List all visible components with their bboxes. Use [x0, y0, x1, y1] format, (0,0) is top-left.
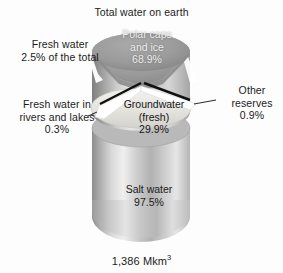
caption-exponent: 3: [167, 253, 171, 262]
callout-other-reserves: Other reserves 0.9%: [222, 84, 282, 122]
callout-fresh-water-total: Fresh water 2.5% of the total: [6, 38, 114, 63]
callout-rivers-and-lakes: Fresh water in rivers and lakes 0.3%: [2, 98, 112, 136]
caption-value: 1,386 Mkm: [112, 255, 167, 267]
figure-caption: 1,386 Mkm3: [0, 252, 283, 267]
water-distribution-figure: Total water on earth: [0, 0, 283, 273]
other-leader-line: [194, 100, 216, 104]
